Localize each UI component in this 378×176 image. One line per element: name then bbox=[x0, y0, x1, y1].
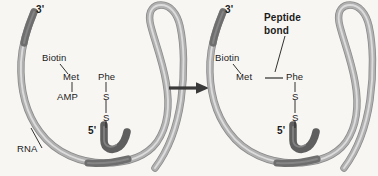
label-met-right: Met bbox=[236, 72, 252, 83]
five-prime-hook-right bbox=[293, 125, 316, 149]
label-three-prime-left: 3' bbox=[36, 4, 44, 15]
label-sulfur-upper-left: S bbox=[103, 92, 109, 103]
label-five-prime-left: 5' bbox=[88, 125, 96, 136]
rna-peptide-bond-figure: 3' Biotin Met AMP Phe S S 5' RNA bbox=[0, 0, 378, 176]
label-rna-left: RNA bbox=[17, 144, 37, 155]
label-peptide-bond-line2: bond bbox=[264, 25, 289, 36]
label-sulfur-upper-right: S bbox=[292, 92, 298, 103]
label-phe-left: Phe bbox=[98, 72, 115, 83]
leader-line-peptide-bond-right bbox=[275, 36, 285, 72]
label-biotin-left: Biotin bbox=[42, 53, 66, 64]
before-peptide-bond-panel: 3' Biotin Met AMP Phe S S 5' RNA bbox=[0, 0, 189, 176]
label-biotin-right: Biotin bbox=[215, 53, 239, 64]
label-five-prime-right: 5' bbox=[277, 125, 285, 136]
rna-dark-segment-three-prime-left bbox=[24, 12, 34, 43]
five-prime-hook-left bbox=[104, 125, 127, 149]
label-peptide-bond-line1: Peptide bbox=[264, 12, 301, 23]
label-three-prime-right: 3' bbox=[225, 4, 233, 15]
label-phe-right: Phe bbox=[286, 72, 303, 83]
rna-dark-segment-three-prime-right bbox=[213, 12, 223, 43]
label-amp-left: AMP bbox=[57, 92, 78, 103]
after-peptide-bond-panel: 3' Peptide bond Biotin Met Phe S S 5' bbox=[189, 0, 378, 176]
label-sulfur-lower-right: S bbox=[292, 113, 298, 124]
label-met-left: Met bbox=[63, 72, 79, 83]
label-sulfur-lower-left: S bbox=[103, 113, 109, 124]
